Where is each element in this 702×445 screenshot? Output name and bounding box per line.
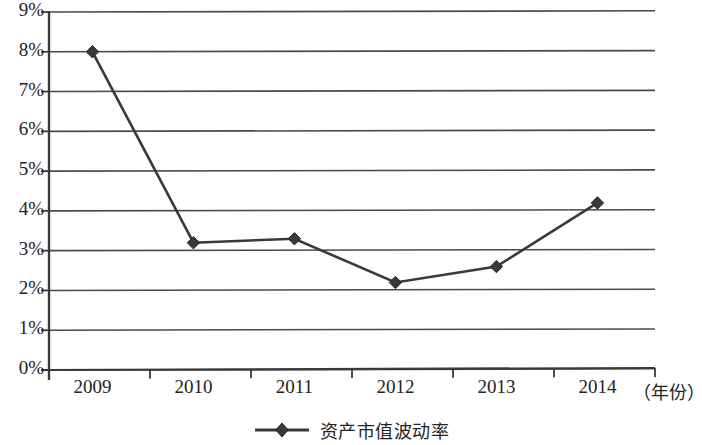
x-axis-unit-note: （年份） [633, 378, 702, 404]
x-axis-tick-label: 2009 [47, 376, 137, 398]
x-axis-tick-label: 2010 [148, 376, 238, 398]
legend-entry-label: 资产市值波动率 [320, 417, 450, 443]
x-axis-tick-label: 2012 [350, 376, 440, 398]
x-axis-tick-label: 2014 [552, 376, 642, 398]
chart-container: 0%1%2%3%4%5%6%7%8%9% 2009201020112012201… [0, 0, 702, 445]
x-axis-tick-label: 2011 [249, 376, 339, 398]
x-axis-labels: 200920102011201220132014 [0, 0, 702, 445]
legend-line-marker-icon [253, 420, 311, 440]
x-axis-tick-label: 2013 [451, 376, 541, 398]
chart-legend: 资产市值波动率 [0, 415, 702, 445]
